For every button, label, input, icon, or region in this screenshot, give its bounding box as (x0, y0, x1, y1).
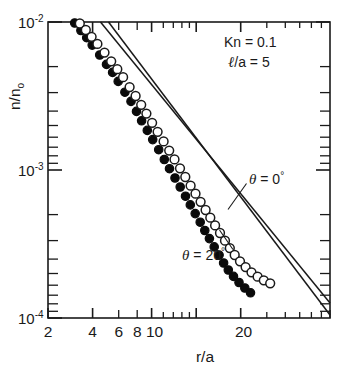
plot-frame (48, 22, 330, 318)
x-tick-label-6: 6 (114, 323, 123, 340)
x-axis-ticks-top (93, 22, 322, 32)
y-axis-title: n/no (6, 82, 26, 110)
x-tick-label-20: 20 (235, 323, 253, 340)
fit-lines (101, 22, 331, 315)
x-axis-ticks-bottom (48, 308, 330, 318)
annotation-mean-free-path: ℓ/a = 5 (228, 54, 270, 70)
series-label-theta-0: θ = 0° (249, 170, 284, 187)
y-axis-tick-labels: 10-2 10-3 10-4 (18, 13, 44, 327)
x-tick-label-10: 10 (146, 323, 164, 340)
y-axis-ticks-right (316, 22, 330, 311)
x-tick-label-8: 8 (133, 323, 142, 340)
y-tick-label-1e-4: 10-4 (18, 309, 44, 327)
svg-text:n/no: n/no (6, 82, 26, 110)
x-axis-tick-labels: 2 4 6 8 10 20 (44, 323, 253, 340)
annotation-kn: Kn = 0.1 (224, 34, 277, 50)
series-label-theta-20: θ = 20° (182, 246, 225, 263)
y-tick-label-1e-2: 10-2 (18, 13, 44, 31)
x-axis-title: r/a (196, 348, 214, 365)
annotation-block: Kn = 0.1 ℓ/a = 5 (224, 34, 277, 70)
y-tick-label-1e-3: 10-3 (18, 161, 44, 179)
svg-text:θ = 20°: θ = 20° (182, 246, 225, 263)
figure-container: 10-2 10-3 10-4 n/no 2 4 6 8 10 20 r/a Kn… (0, 0, 342, 371)
x-tick-label-2: 2 (44, 323, 53, 340)
y-axis-ticks-left (48, 22, 62, 318)
svg-text:θ = 0°: θ = 0° (249, 170, 284, 187)
fit-line-theta-20 (109, 22, 331, 315)
svg-text:r/a: r/a (196, 348, 214, 365)
log-log-scatter-chart: 10-2 10-3 10-4 n/no 2 4 6 8 10 20 r/a Kn… (0, 0, 342, 371)
x-tick-label-4: 4 (88, 323, 97, 340)
